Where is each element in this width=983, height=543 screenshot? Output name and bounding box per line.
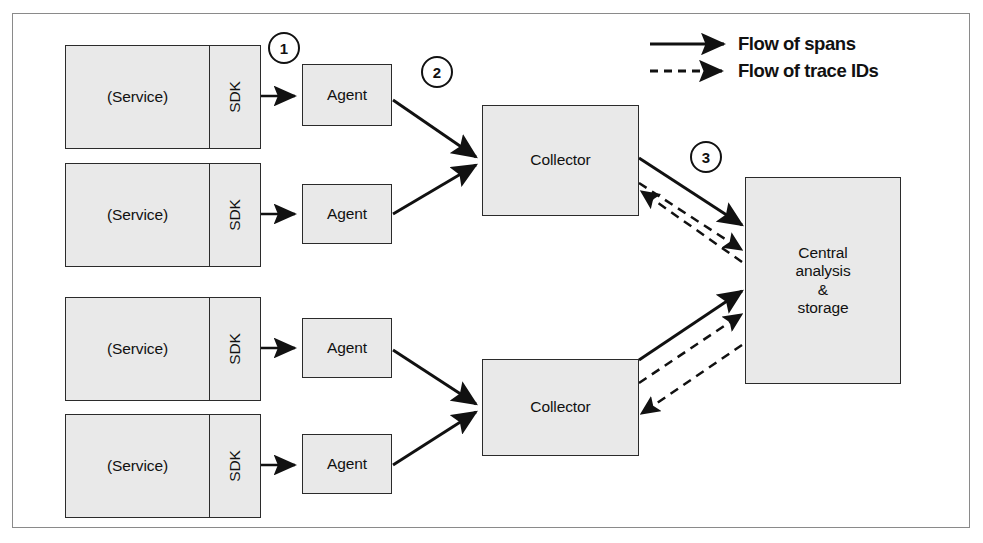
sdk-box: SDK <box>210 46 260 148</box>
service-row[interactable]: (Service) SDK <box>65 45 261 149</box>
service-label: (Service) <box>107 206 168 224</box>
agent-box[interactable]: Agent <box>302 64 392 126</box>
agent-box[interactable]: Agent <box>302 184 392 244</box>
step-marker-3-label: 3 <box>702 149 710 166</box>
dashed-arrow-icon <box>648 57 734 84</box>
sdk-label: SDK <box>226 199 244 231</box>
agent-label: Agent <box>327 86 367 104</box>
sdk-box: SDK <box>210 298 260 400</box>
service-row[interactable]: (Service) SDK <box>65 414 261 518</box>
step-marker-1-label: 1 <box>280 40 288 57</box>
step-marker-2-label: 2 <box>433 64 441 81</box>
sdk-label: SDK <box>226 333 244 365</box>
legend-label-trace-ids: Flow of trace IDs <box>738 60 878 82</box>
service-box: (Service) <box>66 164 210 266</box>
legend: Flow of spans Flow of trace IDs <box>648 30 948 84</box>
agent-label: Agent <box>327 339 367 357</box>
agent-label: Agent <box>327 205 367 223</box>
central-label: Central analysis & storage <box>795 244 850 317</box>
service-label: (Service) <box>107 88 168 106</box>
collector-label: Collector <box>530 151 590 169</box>
service-row[interactable]: (Service) SDK <box>65 163 261 267</box>
service-box: (Service) <box>66 415 210 517</box>
diagram-canvas: (Service) SDK (Service) SDK (Service) SD… <box>0 0 983 543</box>
service-box: (Service) <box>66 298 210 400</box>
step-marker-1: 1 <box>268 32 300 64</box>
step-marker-2: 2 <box>421 56 453 88</box>
service-label: (Service) <box>107 340 168 358</box>
central-analysis-storage-box[interactable]: Central analysis & storage <box>745 177 901 384</box>
service-box: (Service) <box>66 46 210 148</box>
sdk-label: SDK <box>226 450 244 482</box>
agent-label: Agent <box>327 455 367 473</box>
legend-item-flow-of-spans: Flow of spans <box>648 30 948 57</box>
collector-box[interactable]: Collector <box>482 359 639 456</box>
service-label: (Service) <box>107 457 168 475</box>
agent-box[interactable]: Agent <box>302 318 392 378</box>
step-marker-3: 3 <box>690 141 722 173</box>
sdk-label: SDK <box>226 81 244 113</box>
service-row[interactable]: (Service) SDK <box>65 297 261 401</box>
collector-box[interactable]: Collector <box>482 105 639 216</box>
sdk-box: SDK <box>210 164 260 266</box>
solid-arrow-icon <box>648 30 734 57</box>
agent-box[interactable]: Agent <box>302 434 392 494</box>
collector-label: Collector <box>530 398 590 416</box>
sdk-box: SDK <box>210 415 260 517</box>
legend-label-spans: Flow of spans <box>738 33 856 55</box>
legend-item-flow-of-trace-ids: Flow of trace IDs <box>648 57 948 84</box>
